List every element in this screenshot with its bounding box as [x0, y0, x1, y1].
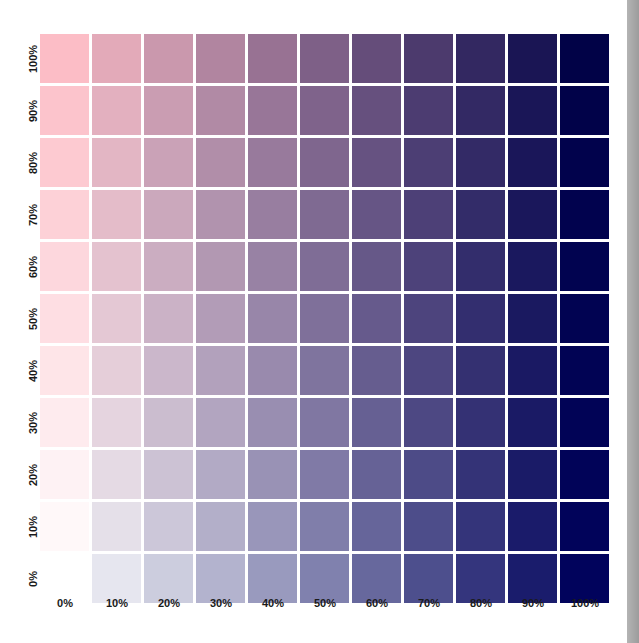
y-tick-label: 100%: [26, 34, 40, 84]
swatch-cell: [456, 450, 505, 499]
swatch-cell: [508, 450, 557, 499]
swatch-cell: [456, 86, 505, 135]
swatch-cell: [352, 398, 401, 447]
x-tick-label: 80%: [455, 597, 507, 609]
swatch-cell: [404, 294, 453, 343]
swatch-cell: [300, 242, 349, 291]
swatch-cell: [404, 34, 453, 83]
swatch-cell: [456, 34, 505, 83]
swatch-cell: [144, 190, 193, 239]
x-tick-label: 30%: [195, 597, 247, 609]
x-tick-label: 40%: [247, 597, 299, 609]
swatch-cell: [196, 242, 245, 291]
swatch-cell: [300, 294, 349, 343]
swatch-cell: [560, 242, 609, 291]
y-tick-label: 60%: [26, 242, 40, 292]
swatch-cell: [508, 34, 557, 83]
swatch-cell: [92, 398, 141, 447]
swatch-cell: [508, 398, 557, 447]
swatch-cell: [40, 138, 89, 187]
swatch-cell: [144, 346, 193, 395]
swatch-cell: [300, 398, 349, 447]
swatch-cell: [196, 346, 245, 395]
swatch-cell: [508, 294, 557, 343]
swatch-cell: [352, 34, 401, 83]
swatch-cell: [40, 190, 89, 239]
swatch-cell: [92, 554, 141, 603]
y-tick-label: 0%: [26, 554, 40, 604]
y-tick-label: 70%: [26, 190, 40, 240]
swatch-cell: [560, 450, 609, 499]
swatch-cell: [560, 86, 609, 135]
swatch-cell: [40, 450, 89, 499]
swatch-cell: [144, 398, 193, 447]
swatch-cell: [248, 86, 297, 135]
swatch-cell: [456, 398, 505, 447]
swatch-cell: [352, 502, 401, 551]
swatch-cell: [40, 86, 89, 135]
swatch-cell: [404, 190, 453, 239]
x-tick-label: 50%: [299, 597, 351, 609]
x-tick-label: 90%: [507, 597, 559, 609]
swatch-cell: [352, 450, 401, 499]
swatch-cell: [456, 242, 505, 291]
swatch-cell: [404, 554, 453, 603]
swatch-cell: [508, 86, 557, 135]
x-tick-label: 70%: [403, 597, 455, 609]
swatch-cell: [92, 294, 141, 343]
swatch-cell: [560, 398, 609, 447]
swatch-cell: [248, 398, 297, 447]
swatch-cell: [300, 554, 349, 603]
x-tick-label: 100%: [559, 597, 611, 609]
swatch-cell: [144, 502, 193, 551]
swatch-cell: [508, 242, 557, 291]
swatch-cell: [144, 138, 193, 187]
swatch-cell: [248, 502, 297, 551]
swatch-cell: [248, 190, 297, 239]
swatch-cell: [404, 86, 453, 135]
swatch-cell: [40, 242, 89, 291]
swatch-cell: [508, 138, 557, 187]
swatch-cell: [300, 34, 349, 83]
swatch-cell: [352, 190, 401, 239]
swatch-cell: [248, 34, 297, 83]
swatch-cell: [352, 138, 401, 187]
swatch-cell: [404, 450, 453, 499]
swatch-cell: [404, 138, 453, 187]
swatch-cell: [196, 294, 245, 343]
swatch-cell: [560, 502, 609, 551]
swatch-cell: [92, 138, 141, 187]
swatch-cell: [352, 554, 401, 603]
swatch-cell: [300, 138, 349, 187]
swatch-cell: [560, 190, 609, 239]
swatch-cell: [300, 502, 349, 551]
swatch-cell: [508, 190, 557, 239]
x-tick-label: 60%: [351, 597, 403, 609]
swatch-cell: [144, 242, 193, 291]
swatch-cell: [40, 398, 89, 447]
swatch-cell: [196, 450, 245, 499]
swatch-cell: [196, 34, 245, 83]
swatch-cell: [456, 294, 505, 343]
swatch-cell: [560, 294, 609, 343]
swatch-cell: [144, 34, 193, 83]
swatch-cell: [144, 554, 193, 603]
swatch-cell: [92, 190, 141, 239]
swatch-cell: [196, 138, 245, 187]
swatch-cell: [92, 346, 141, 395]
swatch-cell: [352, 294, 401, 343]
x-tick-label: 20%: [143, 597, 195, 609]
swatch-cell: [456, 138, 505, 187]
swatch-cell: [300, 86, 349, 135]
swatch-cell: [144, 86, 193, 135]
color-mix-grid: 100%90%80%70%60%50%40%30%20%10%0%0%10%20…: [0, 0, 639, 643]
swatch-cell: [248, 346, 297, 395]
swatch-cell: [144, 294, 193, 343]
swatch-cell: [352, 86, 401, 135]
y-tick-label: 20%: [26, 450, 40, 500]
swatch-cell: [456, 190, 505, 239]
swatch-cell: [40, 346, 89, 395]
swatch-cell: [196, 86, 245, 135]
swatch-cell: [196, 190, 245, 239]
swatch-cell: [144, 450, 193, 499]
